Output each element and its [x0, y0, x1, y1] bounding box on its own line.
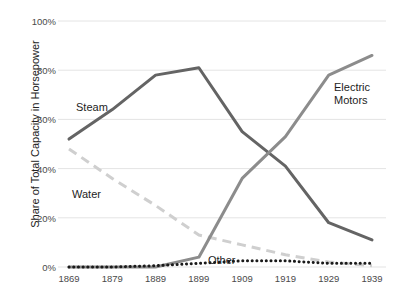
x-tick-label: 1939 [361, 273, 382, 284]
series-label-motors: Motors [334, 94, 368, 107]
series-label-other: Other [208, 254, 236, 267]
series-line-water [69, 149, 372, 266]
series-label-electric: Electric [334, 81, 370, 94]
gridlines [58, 21, 386, 267]
x-tick-label: 1929 [318, 273, 339, 284]
series-line-electric-motors [69, 55, 372, 267]
x-tick-label: 1869 [58, 273, 79, 284]
x-tick-label: 1899 [188, 273, 209, 284]
plot-area [0, 0, 403, 304]
x-tick-label: 1919 [275, 273, 296, 284]
series-label-steam: Steam [76, 101, 108, 114]
x-tick-label: 1879 [102, 273, 123, 284]
x-tick-label: 1909 [232, 273, 253, 284]
series-lines [69, 55, 372, 267]
series-line-steam [69, 68, 372, 240]
x-tick-label: 1889 [145, 273, 166, 284]
chart-container: Share of Total Capacity in Horsepower 0%… [0, 0, 403, 304]
series-label-water: Water [72, 188, 101, 201]
